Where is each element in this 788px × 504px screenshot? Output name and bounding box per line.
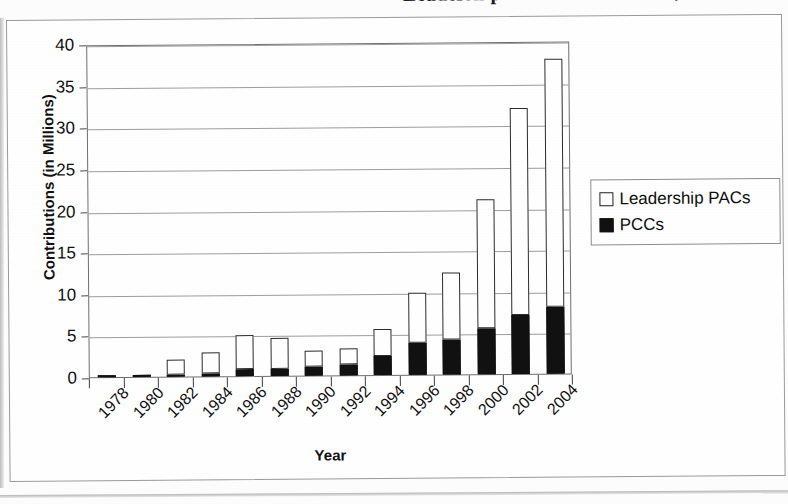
bar-segment-pccs-2004[interactable] xyxy=(546,307,564,374)
y-tick-label-20: 20 xyxy=(57,202,76,222)
y-tick-mark-0 xyxy=(82,378,89,379)
bar-group-2002[interactable] xyxy=(509,41,530,374)
x-axis-title: Year xyxy=(220,446,440,465)
bar-group-1982[interactable] xyxy=(164,44,185,377)
bar-group-1998[interactable] xyxy=(440,41,461,374)
chart-title: Leadership PAC Contributions, 1978-2004 xyxy=(403,0,774,6)
bar-group-1994[interactable] xyxy=(371,42,392,375)
bar-segment-leadership-pacs-2004[interactable] xyxy=(544,59,564,307)
bar-segment-pccs-1998[interactable] xyxy=(443,339,461,374)
bar-segment-pccs-1980[interactable] xyxy=(133,375,151,377)
y-tick-label-25: 25 xyxy=(56,160,75,180)
bar-group-2004[interactable] xyxy=(544,41,565,374)
legend-swatch-leadership-pacs-icon xyxy=(599,192,613,206)
bar-segment-pccs-1978[interactable] xyxy=(98,375,116,378)
bar-group-1984[interactable] xyxy=(199,43,220,376)
bar-segment-pccs-1982[interactable] xyxy=(167,374,185,377)
bar-segment-pccs-1992[interactable] xyxy=(339,364,357,375)
x-axis-labels: 1978198019821984198619881990199219941996… xyxy=(10,375,711,450)
bar-segment-pccs-1984[interactable] xyxy=(202,373,220,376)
scanned-page: Leadership PAC Contributions, 1978-2004 … xyxy=(0,0,788,504)
y-tick-label-40: 40 xyxy=(55,35,74,55)
bar-segment-pccs-1996[interactable] xyxy=(408,343,426,375)
plot-area xyxy=(86,42,572,379)
bar-group-1986[interactable] xyxy=(233,43,254,376)
bar-group-1978[interactable] xyxy=(95,44,116,377)
y-tick-mark-20 xyxy=(81,212,88,213)
bar-group-1996[interactable] xyxy=(406,42,427,375)
clipped-title-strip: Leadership PAC Contributions, 1978-2004 xyxy=(0,0,788,11)
bar-segment-pccs-2000[interactable] xyxy=(477,328,495,374)
bar-group-1990[interactable] xyxy=(302,43,323,376)
bar-segment-leadership-pacs-2000[interactable] xyxy=(476,199,495,328)
y-tick-label-5: 5 xyxy=(67,327,77,347)
bar-series-container xyxy=(87,43,571,378)
legend-swatch-pccs-icon xyxy=(600,218,614,232)
legend-item-pccs: PCCs xyxy=(600,214,772,235)
y-tick-mark-25 xyxy=(80,170,87,171)
y-tick-label-15: 15 xyxy=(57,244,76,264)
bar-segment-leadership-pacs-1988[interactable] xyxy=(270,338,288,369)
y-tick-label-35: 35 xyxy=(56,77,75,97)
y-tick-mark-30 xyxy=(80,129,87,130)
y-tick-mark-35 xyxy=(80,87,87,88)
bar-segment-pccs-1990[interactable] xyxy=(305,366,323,375)
bar-segment-leadership-pacs-1986[interactable] xyxy=(236,335,254,368)
y-tick-mark-10 xyxy=(81,295,88,296)
bar-segment-leadership-pacs-1996[interactable] xyxy=(408,293,426,343)
y-axis-labels: 0510152025303540 xyxy=(7,20,89,381)
bar-segment-pccs-2002[interactable] xyxy=(512,315,530,374)
chart-object-frame: Contributions (in Millions) 051015202530… xyxy=(6,14,786,482)
y-tick-label-30: 30 xyxy=(56,119,75,139)
bar-segment-leadership-pacs-2002[interactable] xyxy=(510,108,530,315)
bar-group-1980[interactable] xyxy=(130,44,151,377)
bar-segment-leadership-pacs-1992[interactable] xyxy=(339,348,357,365)
bar-segment-leadership-pacs-1998[interactable] xyxy=(442,273,460,340)
chart-inner: Contributions (in Millions) 051015202530… xyxy=(7,15,787,483)
bar-group-2000[interactable] xyxy=(475,41,496,374)
bar-group-1992[interactable] xyxy=(337,42,358,375)
bar-segment-leadership-pacs-1982[interactable] xyxy=(167,360,185,374)
legend-label-leadership-pacs: Leadership PACs xyxy=(619,188,750,209)
y-tick-mark-40 xyxy=(79,45,86,46)
y-tick-label-10: 10 xyxy=(57,285,76,305)
y-tick-mark-15 xyxy=(81,253,88,254)
chart-legend: Leadership PACs PCCs xyxy=(590,178,781,245)
bar-segment-leadership-pacs-1990[interactable] xyxy=(305,351,323,367)
bar-segment-leadership-pacs-1984[interactable] xyxy=(201,352,219,373)
legend-item-leadership-pacs: Leadership PACs xyxy=(599,188,771,209)
y-tick-mark-5 xyxy=(81,337,88,338)
page-edge-shadow-left xyxy=(0,18,4,488)
bar-segment-pccs-1994[interactable] xyxy=(374,356,392,375)
bar-segment-leadership-pacs-1994[interactable] xyxy=(374,329,392,356)
page-edge-shadow-bottom xyxy=(0,490,788,498)
legend-label-pccs: PCCs xyxy=(620,215,665,235)
bar-segment-pccs-1988[interactable] xyxy=(271,368,289,376)
bar-group-1988[interactable] xyxy=(268,43,289,376)
bar-segment-pccs-1986[interactable] xyxy=(236,369,254,377)
